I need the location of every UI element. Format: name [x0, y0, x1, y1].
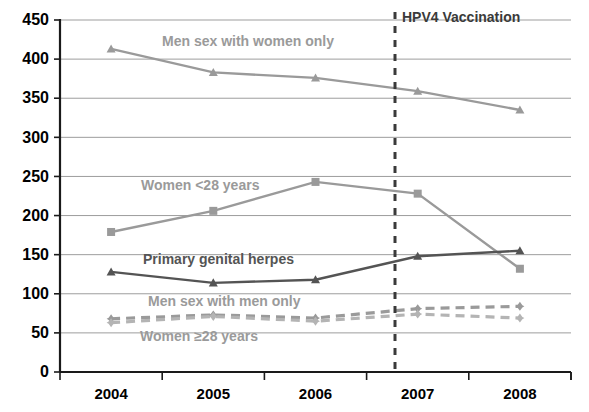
y-axis-tick-label: 200 — [22, 207, 49, 224]
data-point-marker — [515, 302, 524, 311]
y-axis-tick-label: 0 — [40, 363, 49, 380]
series-label-4: Women ≥28 years — [140, 328, 258, 344]
data-point-marker — [414, 190, 422, 198]
series-label-0: Men sex with women only — [162, 33, 334, 49]
x-axis-tick-label: 2004 — [94, 385, 128, 402]
data-point-marker — [515, 314, 524, 323]
series-labels: Men sex with women onlyWomen <28 yearsPr… — [140, 33, 334, 344]
y-axis-tick-label: 350 — [22, 89, 49, 106]
y-axis-tick-label: 100 — [22, 285, 49, 302]
data-point-marker — [312, 178, 320, 186]
x-axis-tick-label: 2006 — [299, 385, 332, 402]
y-axis-tick-label: 450 — [22, 11, 49, 28]
y-axis-tick-label: 150 — [22, 246, 49, 263]
gridlines — [60, 20, 571, 333]
line-chart: 050100150200250300350400450 200420052006… — [0, 0, 589, 412]
series-label-3: Men sex with men only — [148, 293, 301, 309]
x-axis-tick-label: 2008 — [503, 385, 536, 402]
axes — [54, 19, 571, 380]
y-axis-tick-label: 250 — [22, 168, 49, 185]
series-label-1: Women <28 years — [141, 177, 260, 193]
x-axis-tick-label: 2005 — [197, 385, 230, 402]
data-point-marker — [209, 312, 218, 321]
y-axis-tick-label: 50 — [31, 324, 49, 341]
data-point-marker — [413, 310, 422, 319]
chart-container: 050100150200250300350400450 200420052006… — [0, 0, 589, 412]
data-point-marker — [209, 207, 217, 215]
data-point-marker — [516, 265, 524, 273]
y-axis-tick-label: 300 — [22, 129, 49, 146]
y-axis-tick-label: 400 — [22, 50, 49, 67]
annotation-label-0: HPV4 Vaccination — [402, 9, 520, 25]
x-axis-tick-labels: 20042005200620072008 — [94, 385, 536, 402]
y-axis-tick-labels: 050100150200250300350400450 — [22, 11, 49, 380]
series-label-2: Primary genital herpes — [143, 251, 294, 267]
x-axis-tick-label: 2007 — [401, 385, 434, 402]
data-point-marker — [107, 228, 115, 236]
